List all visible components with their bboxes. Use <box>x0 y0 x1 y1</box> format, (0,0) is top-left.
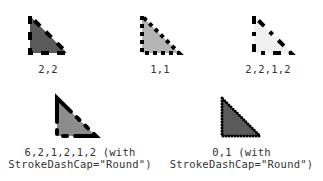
label-dash-2-2-1-2: 2,2,1,2 <box>236 63 300 75</box>
label-dash-6-2-1-2-1-2-line1: 6,2,1,2,1,2 (with <box>0 146 160 158</box>
label-dash-2-2: 2,2 <box>28 63 68 75</box>
example-dash-1-1: 1,1 <box>110 0 210 90</box>
label-dash-0-1-line1: 0,1 (with <box>160 146 323 158</box>
example-dash-0-1-round: 0,1 (with StrokeDashCap="Round") <box>160 90 323 181</box>
triangle-dash-6-2-1-2-1-2-shape <box>0 90 160 150</box>
example-dash-2-2: 2,2 <box>0 0 100 90</box>
triangle-dash-2-2-1-2-shape <box>210 0 323 70</box>
label-dash-0-1-line2: StrokeDashCap="Round") <box>160 158 323 170</box>
example-dash-2-2-1-2: 2,2,1,2 <box>210 0 323 90</box>
triangle-dash-1-1-shape <box>110 0 210 70</box>
label-dash-1-1: 1,1 <box>140 63 180 75</box>
triangle-dash-0-1-shape <box>160 90 323 150</box>
label-dash-6-2-1-2-1-2-line2: StrokeDashCap="Round") <box>0 158 160 170</box>
example-dash-6-2-1-2-1-2-round: 6,2,1,2,1,2 (with StrokeDashCap="Round") <box>0 90 160 181</box>
triangle-dash-2-2-shape <box>0 0 100 70</box>
